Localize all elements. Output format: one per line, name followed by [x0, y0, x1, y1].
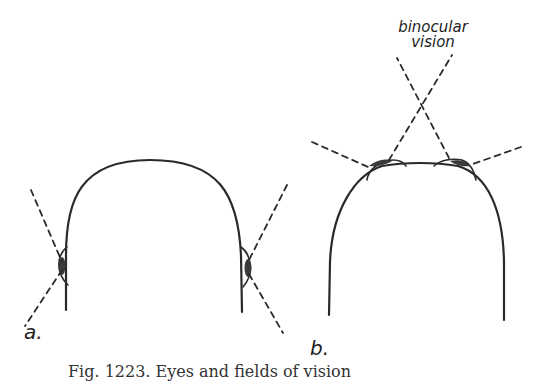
annotation-line-2: vision	[383, 35, 483, 50]
sight-line-a-left-upper	[31, 190, 62, 262]
sight-line-b-left-outer	[312, 142, 368, 167]
figure-caption: Fig. 1223. Eyes and fields of vision	[68, 362, 351, 381]
binocular-vision-label: binocular vision	[383, 20, 483, 50]
panel-label-b: b.	[310, 336, 329, 360]
panel-a-drawing	[25, 160, 287, 333]
panel-label-a: a.	[24, 320, 43, 344]
sight-line-b-right-outer	[470, 147, 521, 165]
head-outline-b	[329, 163, 504, 320]
sight-line-a-left-lower	[25, 270, 62, 326]
panel-b-drawing	[312, 55, 521, 320]
sight-line-a-right-upper	[248, 185, 287, 262]
head-outline-a	[66, 160, 242, 312]
eye-right-a	[245, 259, 252, 277]
sight-line-a-right-lower	[249, 274, 283, 333]
